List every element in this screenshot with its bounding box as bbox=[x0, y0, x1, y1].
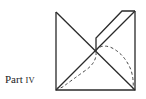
folding-diagram bbox=[0, 0, 146, 99]
